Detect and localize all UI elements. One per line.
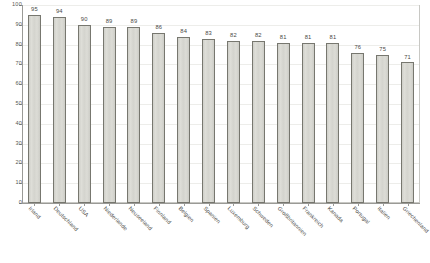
bar-slot: 81 [277,5,290,203]
bar-slot: 86 [152,5,165,203]
bar[interactable] [78,25,91,203]
bars-container: 95949089898684838282818181767571 [22,5,420,203]
bar-value-label: 83 [205,31,212,37]
bar-value-label: 81 [280,35,287,41]
y-tick-label: 90 [0,22,22,28]
bar-value-label: 81 [330,35,337,41]
bar-value-label: 76 [354,45,361,51]
x-axis-category-label: Griechenland [401,206,429,234]
bar-value-label: 95 [31,7,38,13]
bar-value-label: 75 [379,47,386,53]
bar-value-label: 90 [81,17,88,23]
x-axis-category-label: Italien [376,206,391,221]
bar[interactable] [252,41,265,203]
bar-value-label: 84 [180,29,187,35]
bar[interactable] [152,33,165,203]
bar-slot: 81 [302,5,315,203]
bar[interactable] [376,55,389,204]
y-tick-label: 50 [0,101,22,107]
x-axis-category-label: Kanada [326,206,344,224]
bar[interactable] [177,37,190,203]
y-tick-label: 30 [0,141,22,147]
bar[interactable] [277,43,290,203]
x-axis-labels: IrlandDeutschlandUSANiederlandeNeuseelan… [0,204,426,263]
y-tick-label: 60 [0,81,22,87]
y-tick-label: 10 [0,180,22,186]
x-axis-category-label: Irland [27,206,41,220]
bar[interactable] [401,62,414,203]
bar-slot: 71 [401,5,414,203]
bar-slot: 90 [78,5,91,203]
y-tick-label: 100 [0,2,22,8]
x-axis-category-label: USA [77,206,89,218]
y-tick-label: 80 [0,42,22,48]
bar[interactable] [202,39,215,203]
bar-value-label: 82 [230,33,237,39]
bar[interactable] [127,27,140,203]
x-axis-category-label: Schweden [251,206,274,229]
y-tick-label: 70 [0,62,22,68]
y-tick-label: 40 [0,121,22,127]
y-tick-label: 20 [0,161,22,167]
x-axis-category-label: Belgien [177,206,195,224]
bar-slot: 84 [177,5,190,203]
x-axis-category-label: Niederlande [102,206,128,232]
bar[interactable] [53,17,66,203]
x-axis-category-label: Frankreich [301,206,324,229]
bar-value-label: 82 [255,33,262,39]
bar-slot: 81 [326,5,339,203]
bar-slot: 94 [53,5,66,203]
bar-slot: 83 [202,5,215,203]
bar-value-label: 81 [305,35,312,41]
bar-value-label: 86 [155,25,162,31]
bar-slot: 76 [351,5,364,203]
bar-slot: 89 [103,5,116,203]
bar[interactable] [28,15,41,203]
x-axis-category-label: Deutschland [52,206,79,233]
x-axis-category-label: Portugal [351,206,370,225]
x-axis-category-label: Neuseeland [127,206,153,232]
x-axis-category-label: Luxemburg [226,206,250,230]
bar[interactable] [103,27,116,203]
bar-value-label: 89 [106,19,113,25]
bar-slot: 95 [28,5,41,203]
bar-slot: 82 [227,5,240,203]
bar-slot: 89 [127,5,140,203]
bar[interactable] [227,41,240,203]
bar-slot: 75 [376,5,389,203]
bar-slot: 82 [252,5,265,203]
bar[interactable] [302,43,315,203]
bar-value-label: 94 [56,9,63,15]
bar[interactable] [326,43,339,203]
x-axis-category-label: Spanien [202,206,221,225]
bar-value-label: 71 [404,55,411,61]
bar[interactable] [351,53,364,203]
x-axis-category-label: Finnland [152,206,172,226]
bar-value-label: 89 [131,19,138,25]
